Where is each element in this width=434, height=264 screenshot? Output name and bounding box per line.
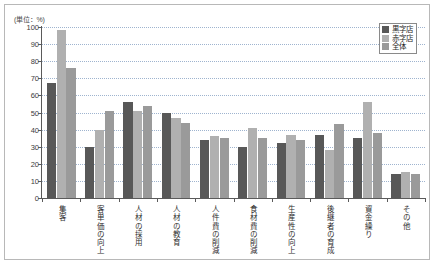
bar-group	[123, 27, 152, 198]
y-axis-tick-mark	[38, 181, 42, 182]
bar	[258, 138, 267, 198]
y-axis-tick-mark	[38, 198, 42, 199]
x-axis-tick	[310, 198, 311, 202]
bar-group	[238, 27, 267, 198]
x-axis-tick	[348, 198, 349, 202]
x-axis-category-label: 人材の教育	[172, 205, 180, 247]
bar	[85, 147, 94, 198]
bar	[238, 147, 247, 198]
bar-group	[277, 27, 306, 198]
bar	[133, 111, 142, 198]
bar	[315, 135, 324, 198]
bar-group	[85, 27, 114, 198]
bar	[363, 102, 372, 198]
bar-group	[47, 27, 76, 198]
legend-swatch-icon	[382, 26, 389, 33]
chart-container: (単位：%) 1009080706050403020100 集客客単価の向上人材…	[4, 4, 430, 260]
bar	[95, 130, 104, 198]
x-axis-tick	[234, 198, 235, 202]
y-axis-tick-mark	[38, 130, 42, 131]
legend-item: 全体	[382, 43, 413, 51]
x-axis-category-label: 食材費の削減	[249, 205, 257, 255]
bar	[47, 83, 56, 198]
y-axis-tick-mark	[38, 113, 42, 114]
bar	[66, 68, 75, 198]
bar-group	[353, 27, 382, 198]
bar	[162, 113, 171, 199]
bar	[391, 174, 400, 198]
x-axis-category-label: 資金繰り	[364, 205, 372, 238]
x-axis-tick	[80, 198, 81, 202]
bar	[248, 128, 257, 198]
bar	[123, 102, 132, 198]
x-axis-category-label: 生産性の向上	[287, 205, 295, 255]
x-axis-tick	[157, 198, 158, 202]
bar	[105, 111, 114, 198]
x-axis-category-label: 集客	[57, 205, 65, 222]
bar	[57, 30, 66, 198]
chart-legend: 黒字店赤字店全体	[379, 23, 417, 54]
y-axis-tick-mark	[38, 61, 42, 62]
x-axis-category-label: 客単価の向上	[96, 205, 104, 255]
y-axis-tick-mark	[38, 95, 42, 96]
bar	[411, 174, 420, 198]
y-axis-tick-mark	[38, 44, 42, 45]
legend-swatch-icon	[382, 35, 389, 42]
x-axis-tick	[387, 198, 388, 202]
y-axis-tick-mark	[38, 147, 42, 148]
legend-label: 全体	[392, 43, 406, 51]
y-axis-tick-mark	[38, 27, 42, 28]
bar	[353, 138, 362, 198]
legend-item: 黒字店	[382, 26, 413, 34]
bar	[171, 118, 180, 198]
x-axis-tick	[42, 198, 43, 202]
bar	[401, 172, 410, 198]
bar-group	[315, 27, 344, 198]
bar-group	[200, 27, 229, 198]
bar	[210, 136, 219, 198]
bar	[200, 140, 209, 198]
legend-label: 赤字店	[392, 35, 413, 43]
x-axis-tick	[425, 198, 426, 202]
bar	[143, 106, 152, 198]
x-axis-category-label: 人材の採用	[134, 205, 142, 247]
y-axis-tick-mark	[38, 164, 42, 165]
bar	[220, 138, 229, 198]
bar	[334, 124, 343, 198]
bar	[286, 135, 295, 198]
y-axis-tick-labels: 1009080706050403020100	[13, 27, 39, 198]
legend-swatch-icon	[382, 43, 389, 50]
x-axis-category-label: 人件費の削減	[210, 205, 218, 255]
plot-area	[42, 27, 425, 198]
x-axis-category-label: その他	[402, 205, 410, 230]
bar-group	[162, 27, 191, 198]
x-axis-category-label: 後継者の育成	[325, 205, 333, 255]
bar	[373, 133, 382, 198]
x-axis-tick	[195, 198, 196, 202]
bar	[296, 140, 305, 198]
y-axis-tick-mark	[38, 78, 42, 79]
bar	[181, 123, 190, 198]
x-axis-tick	[119, 198, 120, 202]
bar	[325, 150, 334, 198]
x-axis-tick	[272, 198, 273, 202]
legend-item: 赤字店	[382, 35, 413, 43]
legend-label: 黒字店	[392, 26, 413, 34]
bar	[277, 143, 286, 198]
